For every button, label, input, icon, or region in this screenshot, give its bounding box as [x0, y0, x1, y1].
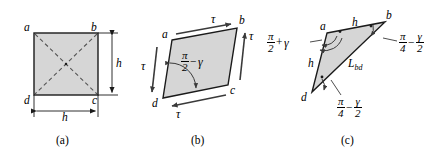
panel-a-vertex-d: d	[24, 95, 30, 107]
panel-c-angle-d-term-fraction: γ 2	[354, 96, 362, 119]
panel-a-caption: (a)	[56, 134, 69, 146]
panel-a-dim-h-vertical: h	[116, 58, 122, 70]
panel-c-angle-a-fraction: π 2	[267, 31, 275, 54]
panel-b-tau-right: τ	[249, 30, 253, 42]
panel-b-vertex-c: c	[230, 85, 235, 97]
tick-a	[339, 30, 342, 33]
panel-c-angle-b-operator: −	[408, 37, 415, 49]
tau-arrow-right	[240, 33, 245, 80]
panel-b-angle-operator: −	[190, 56, 197, 68]
panel-c-lbd-sub: bd	[354, 63, 362, 72]
panel-b-vertex-d: d	[152, 98, 158, 110]
tau-arrow-left	[152, 47, 157, 92]
panel-c-caption: (c)	[341, 134, 354, 146]
tau-arrow-bottom	[172, 95, 226, 106]
leader-angle-a	[310, 40, 322, 42]
panel-b-tau-left: τ	[141, 60, 145, 72]
panel-b-tau-top: τ	[211, 13, 215, 25]
panel-c-angle-b-term-fraction: γ 2	[416, 31, 424, 54]
leader-angle-d	[331, 80, 341, 95]
panel-b-vertex-a: a	[162, 29, 168, 41]
panel-a-geometry	[34, 33, 118, 117]
panel-c-angle-d-label: π 4 − γ 2	[337, 96, 362, 119]
panel-b-vertex-b: b	[239, 15, 245, 27]
panel-c-angle-a-operator: +	[276, 37, 283, 49]
panel-a-vertex-c: c	[92, 95, 97, 107]
panel-b-tau-bottom: τ	[176, 108, 180, 120]
panel-c-vertex-d: d	[301, 92, 307, 104]
panel-c-angle-d-fraction: π 4	[337, 96, 345, 119]
panel-c-side-lbd: Lbd	[348, 58, 362, 72]
panel-b-caption: (b)	[191, 134, 204, 146]
panel-c-angle-a-term: γ	[284, 37, 289, 49]
panel-c-angle-b-label: π 4 − γ 2	[399, 31, 424, 54]
panel-c-angle-b-fraction: π 4	[399, 31, 407, 54]
leader-angle-b	[383, 38, 397, 41]
panel-b-angle-term: γ	[198, 56, 203, 68]
center-dot	[65, 63, 67, 65]
panel-c-angle-a-label: π 2 + γ	[267, 31, 289, 54]
tick-b	[370, 25, 373, 28]
panel-a-vertex-b: b	[91, 22, 97, 34]
panel-a-dim-h-horizontal: h	[62, 112, 68, 124]
panel-c-angle-d-operator: −	[346, 102, 353, 114]
panel-c-vertex-b: b	[386, 10, 392, 22]
panel-c-side-h-left: h	[308, 58, 314, 70]
panel-b-angle-label: π 2 − γ	[181, 50, 203, 73]
tick-d	[321, 76, 324, 79]
panel-c-vertex-a: a	[320, 21, 326, 33]
shear-deformation-figure: a b c d h h (a) a b c d τ τ τ τ π 2 − γ …	[0, 0, 439, 157]
panel-c-side-h-top: h	[352, 17, 358, 29]
panel-a-vertex-a: a	[24, 22, 30, 34]
panel-b-angle-fraction: π 2	[181, 50, 189, 73]
